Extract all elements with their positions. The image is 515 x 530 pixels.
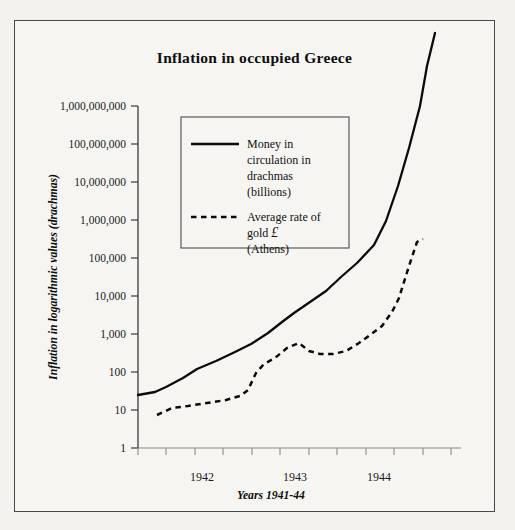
y-tick-label: 100 [109, 366, 127, 378]
x-tick-label: 1942 [190, 470, 214, 484]
y-tick-label: 1,000 [100, 328, 126, 341]
y-axis-tick-labels: 1,000,000,000 100,000,000 10,000,000 1,0… [60, 100, 126, 454]
x-axis-title: Years 1941-44 [237, 489, 305, 502]
y-axis-ticks [131, 106, 138, 448]
y-tick-label: 100,000,000 [69, 138, 127, 151]
y-axis-title: Inflation in logarithmic values (drachma… [47, 174, 60, 381]
y-tick-label: 10 [115, 404, 127, 416]
legend-label-money-line1: Money in [247, 137, 293, 151]
legend-label-money-line2: circulation in [247, 153, 311, 167]
series-line-gold-rate [157, 239, 423, 415]
x-tick-label: 1943 [283, 470, 307, 484]
chart-plot-area: 1,000,000,000 100,000,000 10,000,000 1,0… [15, 21, 496, 513]
x-axis-tick-labels: 1942 1943 1944 [190, 470, 391, 484]
legend-label-money-line3: drachmas [247, 169, 293, 183]
figure-frame: Inflation in occupied Greece 1,000,000,0… [14, 20, 495, 512]
y-tick-label: 1 [120, 442, 126, 454]
legend-gold-word: gold [247, 226, 271, 240]
y-tick-label: 100,000 [89, 252, 127, 265]
pound-sterling-icon: £ [271, 225, 278, 240]
legend-label-gold-line3: (Athens) [247, 242, 289, 256]
y-tick-label: 10,000 [94, 290, 126, 303]
y-tick-label: 1,000,000 [80, 214, 126, 227]
y-tick-label: 1,000,000,000 [60, 100, 126, 113]
legend-label-money-line4: (billions) [247, 185, 291, 199]
x-tick-label: 1944 [367, 470, 391, 484]
chart-legend: Money in circulation in drachmas (billio… [181, 117, 349, 256]
y-tick-label: 10,000,000 [74, 176, 126, 189]
legend-label-gold-line2: gold £ [247, 225, 278, 240]
legend-label-gold-line1: Average rate of [247, 210, 321, 224]
x-axis-ticks [138, 448, 451, 455]
